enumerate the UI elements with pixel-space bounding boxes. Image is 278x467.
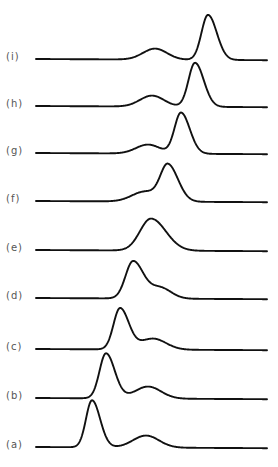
trace-a (36, 400, 267, 448)
trace-label-f: (f) (6, 193, 20, 204)
trace-label-h: (h) (6, 98, 23, 109)
trace-f (36, 164, 267, 203)
trace-label-c: (c) (6, 341, 22, 352)
stacked-traces-chart (0, 0, 278, 467)
trace-e (36, 219, 267, 252)
trace-g (36, 113, 267, 155)
trace-i (36, 15, 267, 60)
trace-label-b: (b) (6, 390, 23, 401)
trace-b (36, 353, 267, 399)
trace-label-e: (e) (6, 242, 23, 253)
trace-d (36, 261, 267, 299)
trace-h (36, 63, 267, 107)
trace-label-g: (g) (6, 145, 23, 156)
trace-label-i: (i) (6, 51, 20, 62)
trace-c (36, 308, 267, 350)
trace-label-a: (a) (6, 439, 23, 450)
trace-label-d: (d) (6, 290, 23, 301)
